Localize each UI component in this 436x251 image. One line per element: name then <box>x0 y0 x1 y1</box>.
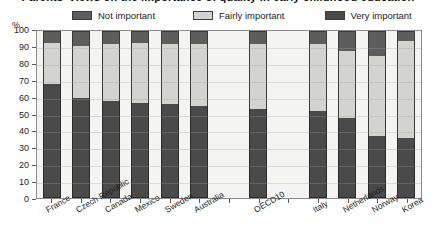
y-axis-labels: 0102030405060708090100 <box>0 24 33 206</box>
bar-segment-not-important <box>161 31 179 44</box>
bar-segment-fairly-important <box>43 43 61 85</box>
bar-segment-not-important <box>397 31 415 41</box>
bar-slot <box>96 31 126 198</box>
x-axis-tick-label: Italy <box>311 198 330 214</box>
bar-segment-very-important <box>249 109 267 198</box>
bar-segment-fairly-important <box>338 51 356 118</box>
y-axis-tick <box>32 131 36 132</box>
bar-slot <box>391 31 421 198</box>
bar-slot <box>67 31 97 198</box>
bar-segment-fairly-important <box>161 44 179 104</box>
y-axis-tick <box>32 64 36 65</box>
legend-label: Not important <box>98 10 155 21</box>
y-axis-tick-label: 90 <box>19 42 29 52</box>
y-axis-tick-label: 60 <box>19 93 29 103</box>
bar-segment-not-important <box>190 31 208 44</box>
x-axis-labels: FranceCzech RepublicCanadaMexicoSwedenAu… <box>0 199 436 251</box>
gridline <box>37 166 421 167</box>
bar-segment-very-important <box>43 84 61 198</box>
stacked-bar-chart: Parents' views on the importance of qual… <box>0 0 436 251</box>
bar-segment-fairly-important <box>102 44 120 101</box>
bar-segment-fairly-important <box>309 44 327 111</box>
table-row[interactable] <box>72 31 90 198</box>
legend-label: Very important <box>351 10 412 21</box>
y-axis-tick <box>32 81 36 82</box>
bar-slot-empty <box>273 31 303 198</box>
gridline <box>37 116 421 117</box>
y-axis-tick-label: 20 <box>19 160 29 170</box>
legend-label: Fairly important <box>219 10 284 21</box>
chart-title: Parents' views on the importance of qual… <box>0 0 436 3</box>
bar-segment-not-important <box>368 31 386 56</box>
bar-segment-fairly-important <box>190 44 208 106</box>
gridline <box>37 99 421 100</box>
bar-segment-very-important <box>309 111 327 198</box>
table-row[interactable] <box>43 31 61 198</box>
legend-swatch-icon <box>72 11 92 20</box>
legend-item-1[interactable]: Fairly important <box>193 10 284 21</box>
bar-segment-not-important <box>72 31 90 46</box>
y-axis-tick-label: 40 <box>19 126 29 136</box>
gridline <box>37 48 421 49</box>
y-axis-tick <box>32 182 36 183</box>
y-axis-tick <box>32 165 36 166</box>
table-row[interactable] <box>368 31 386 198</box>
bar-segment-not-important <box>131 31 149 43</box>
bar-segment-fairly-important <box>72 46 90 98</box>
table-row[interactable] <box>131 31 149 198</box>
bar-slot <box>185 31 215 198</box>
bar-segment-fairly-important <box>249 44 267 109</box>
plot-area <box>36 30 422 199</box>
bar-segment-not-important <box>309 31 327 44</box>
y-axis-tick <box>32 98 36 99</box>
table-row[interactable] <box>161 31 179 198</box>
y-axis-tick <box>32 30 36 31</box>
gridline <box>37 183 421 184</box>
bar-group <box>37 31 421 198</box>
bar-slot <box>332 31 362 198</box>
y-axis-tick <box>32 47 36 48</box>
bar-slot <box>303 31 333 198</box>
bar-segment-fairly-important <box>397 41 415 138</box>
table-row[interactable] <box>102 31 120 198</box>
gridline <box>37 132 421 133</box>
bar-slot <box>37 31 67 198</box>
bar-slot <box>155 31 185 198</box>
y-axis-tick-label: 100 <box>14 25 29 35</box>
chart-legend: Not importantFairly importantVery import… <box>72 9 432 22</box>
y-axis-tick-label: 50 <box>19 110 29 120</box>
bar-segment-very-important <box>190 106 208 198</box>
gridline <box>37 149 421 150</box>
legend-swatch-icon <box>325 11 345 20</box>
y-axis-tick-label: 80 <box>19 59 29 69</box>
table-row[interactable] <box>309 31 327 198</box>
y-axis-tick-label: 10 <box>19 177 29 187</box>
bar-segment-very-important <box>338 118 356 198</box>
gridline <box>37 82 421 83</box>
y-axis-tick-label: 30 <box>19 143 29 153</box>
bar-slot <box>244 31 274 198</box>
bar-segment-fairly-important <box>131 43 149 103</box>
y-axis-tick <box>32 199 36 200</box>
legend-item-0[interactable]: Not important <box>72 10 155 21</box>
legend-swatch-icon <box>193 11 213 20</box>
table-row[interactable] <box>338 31 356 198</box>
bar-slot <box>362 31 392 198</box>
y-axis-tick-label: 70 <box>19 76 29 86</box>
bar-slot <box>126 31 156 198</box>
legend-item-2[interactable]: Very important <box>325 10 412 21</box>
bar-segment-very-important <box>397 138 415 198</box>
table-row[interactable] <box>249 31 267 198</box>
bar-segment-not-important <box>43 31 61 43</box>
y-axis-tick <box>32 115 36 116</box>
bar-segment-not-important <box>102 31 120 44</box>
bar-segment-not-important <box>249 31 267 44</box>
table-row[interactable] <box>397 31 415 198</box>
bar-segment-fairly-important <box>368 56 386 136</box>
gridline <box>37 65 421 66</box>
y-axis-tick <box>32 148 36 149</box>
table-row[interactable] <box>190 31 208 198</box>
bar-slot-empty <box>214 31 244 198</box>
